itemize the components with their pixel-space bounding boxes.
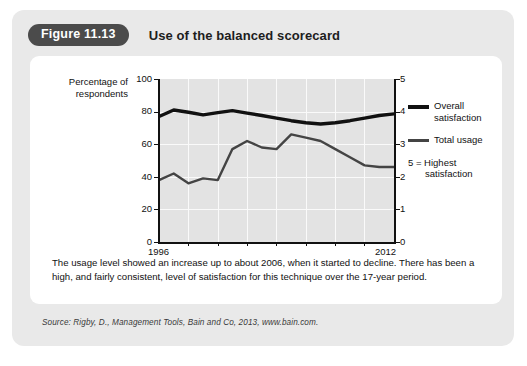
figure-title: Use of the balanced scorecard bbox=[149, 28, 340, 43]
x-tick-mark bbox=[335, 243, 336, 246]
x-axis bbox=[158, 242, 396, 244]
y-right-tick-mark bbox=[396, 177, 400, 178]
figure-source: Source: Rigby, D., Management Tools, Bai… bbox=[42, 318, 318, 327]
y-tick-mark bbox=[154, 209, 158, 210]
plot-region bbox=[159, 79, 394, 242]
y-right-tick-mark bbox=[396, 79, 400, 80]
y-axis-title: Percentage of respondents bbox=[48, 76, 128, 99]
y-tick-mark bbox=[154, 177, 158, 178]
y-tick-label-40: 40 bbox=[126, 172, 152, 182]
y-axis-title-line2: respondents bbox=[76, 88, 128, 99]
y-tick-label-60: 60 bbox=[126, 139, 152, 149]
legend-note-line1: 5 = Highest bbox=[408, 157, 456, 168]
series-lines bbox=[159, 79, 394, 242]
legend-item-overall-satisfaction: Overall satisfaction bbox=[408, 100, 502, 123]
figure-card: Figure 11.13 Use of the balanced scoreca… bbox=[12, 10, 514, 346]
y-right-tick-label-0: 0 bbox=[400, 237, 414, 247]
figure-header: Figure 11.13 Use of the balanced scoreca… bbox=[28, 22, 340, 48]
y-right-tick-mark bbox=[396, 242, 400, 243]
y-axis-left bbox=[158, 79, 160, 243]
y-right-tick-mark bbox=[396, 112, 400, 113]
series-overall-satisfaction-line bbox=[159, 110, 394, 124]
y-right-tick-mark bbox=[396, 144, 400, 145]
legend-label: Total usage bbox=[434, 134, 483, 146]
y-axis-title-line1: Percentage of bbox=[69, 76, 128, 87]
x-tick-mark bbox=[218, 243, 219, 246]
series-total-usage-line bbox=[159, 134, 394, 183]
legend-note-line2: satisfaction bbox=[408, 168, 502, 180]
y-tick-label-80: 80 bbox=[126, 106, 152, 116]
figure-caption: The usage level showed an increase up to… bbox=[52, 256, 484, 284]
legend-label: Overall satisfaction bbox=[434, 100, 482, 123]
x-tick-mark bbox=[276, 243, 277, 246]
legend-swatch-icon bbox=[408, 105, 429, 109]
y-axis-right bbox=[394, 79, 396, 243]
y-tick-label-20: 20 bbox=[126, 204, 152, 214]
x-tick-mark bbox=[188, 243, 189, 246]
figure-number-badge: Figure 11.13 bbox=[28, 24, 129, 46]
figure-panel: Percentage of respondents 100 80 60 40 2… bbox=[30, 56, 502, 304]
y-right-tick-mark bbox=[396, 209, 400, 210]
figure-page: Figure 11.13 Use of the balanced scoreca… bbox=[0, 0, 527, 366]
x-tick-mark bbox=[364, 243, 365, 246]
x-tick-mark bbox=[306, 243, 307, 246]
y-right-tick-label-1: 1 bbox=[400, 204, 414, 214]
legend-swatch-icon bbox=[408, 139, 429, 142]
y-tick-mark bbox=[154, 242, 158, 243]
legend-item-total-usage: Total usage bbox=[408, 134, 502, 146]
legend-note: 5 = Highest satisfaction bbox=[408, 157, 502, 180]
y-tick-mark bbox=[154, 79, 158, 80]
chart-legend: Overall satisfaction Total usage 5 = Hig… bbox=[408, 100, 502, 180]
legend-label-line1: Overall bbox=[434, 100, 464, 111]
legend-label-line2: satisfaction bbox=[434, 112, 482, 123]
chart-area: Percentage of respondents 100 80 60 40 2… bbox=[30, 56, 502, 252]
x-tick-mark bbox=[247, 243, 248, 246]
y-tick-mark bbox=[154, 112, 158, 113]
y-tick-label-100: 100 bbox=[126, 74, 152, 84]
y-tick-mark bbox=[154, 144, 158, 145]
y-right-tick-label-5: 5 bbox=[400, 74, 414, 84]
